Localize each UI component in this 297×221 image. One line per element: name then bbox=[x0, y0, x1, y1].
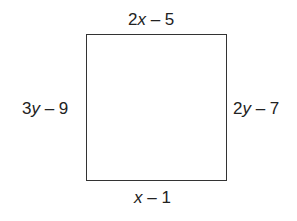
bottom-rest: – 1 bbox=[143, 188, 171, 207]
left-side-label: 3y – 9 bbox=[22, 100, 68, 117]
rectangle-diagram: 2x – 5 3y – 9 2y – 7 x – 1 bbox=[0, 0, 297, 221]
bottom-side-label: x – 1 bbox=[134, 189, 171, 206]
top-var: x bbox=[137, 10, 146, 29]
top-side-label: 2x – 5 bbox=[128, 11, 174, 28]
left-var: y bbox=[31, 99, 40, 118]
rectangle-shape bbox=[86, 34, 227, 181]
top-rest: – 5 bbox=[146, 10, 174, 29]
left-rest: – 9 bbox=[40, 99, 68, 118]
right-var: y bbox=[242, 99, 251, 118]
bottom-var: x bbox=[134, 188, 143, 207]
right-side-label: 2y – 7 bbox=[233, 100, 279, 117]
right-rest: – 7 bbox=[251, 99, 279, 118]
